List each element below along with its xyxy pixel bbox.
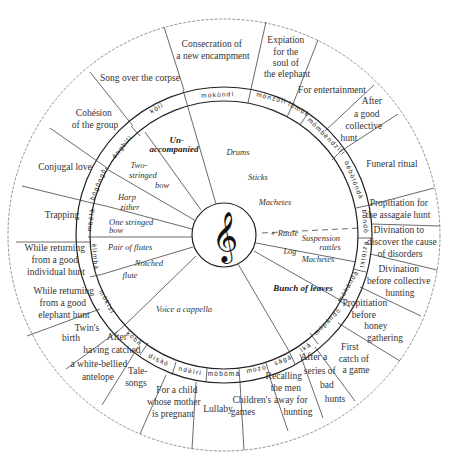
ring-label: èlìmbà xyxy=(91,243,100,270)
segment-after-good-collective-hunt: After a good collective hunt xyxy=(341,96,385,143)
ring-label: èngbìlì xyxy=(110,133,134,160)
segment-cohesion: Cohésion of the group xyxy=(72,108,119,130)
segment-propitiation-honey: Propitiation before honey gathering xyxy=(342,298,403,343)
segment-returning-individual: While returning from a good individual h… xyxy=(25,243,88,277)
inner-label-unaccompanied: Un- accompanied xyxy=(150,135,199,154)
inner-label-rattle: + Rattle xyxy=(270,228,298,238)
treble-clef-icon: 𝄞 xyxy=(212,210,238,264)
segment-conjugal-love: Conjugal love xyxy=(38,162,92,172)
segment-divination-collective: Divination before collective hunting xyxy=(367,264,433,298)
ring-label: mbèlà xyxy=(85,207,95,231)
inner-label-machetes-bottom: Machetes xyxy=(301,254,335,264)
segment-twins-birth: Twin's birth xyxy=(62,323,102,343)
segment-lullaby: Lullaby xyxy=(203,404,233,414)
segment-childrens-games: Children's games xyxy=(231,395,274,417)
ring-label: dìsàò xyxy=(148,352,171,368)
segment-song-corpse: Song over the corpse xyxy=(100,73,180,83)
ring-label: mòkòndì xyxy=(201,90,235,99)
segment-expiation: Expiation for the soul of the elephant xyxy=(264,35,311,79)
ring-label: mòbòmà xyxy=(208,370,241,377)
segment-divination-disorders: Divination to discover the cause of diso… xyxy=(367,225,439,259)
segment-entertainment: For entertainment xyxy=(298,85,366,95)
segment-returning-elephant: While returning from a good elephant hun… xyxy=(34,286,97,320)
segment-consecration: Consecration of a new encampment xyxy=(176,39,250,61)
inner-label-voice-a-cappella: Voice a cappella xyxy=(156,304,212,314)
segment-propitiation-assagaie: Propitiation for the assagaie hunt xyxy=(366,198,431,220)
ring-label: bòndò xyxy=(361,209,370,234)
inner-label-suspension-rattles: Suspension rattles xyxy=(302,233,342,252)
inner-label-bunch-of-leaves: Bunch of leaves xyxy=(272,283,333,293)
ring-label: kòlì xyxy=(149,101,165,115)
inner-label-log: Log xyxy=(282,246,296,256)
ring-label: bògòngò xyxy=(88,167,108,201)
inner-label-machetes-top: Machetes xyxy=(258,197,292,207)
inner-label-notched-flute: Notched flute xyxy=(122,258,165,280)
ring-label: mòpàndò xyxy=(312,306,343,337)
inner-label-one-stringed-bow: One stringed bow xyxy=(109,217,155,235)
inner-label-harp-zither: Harp zither xyxy=(117,192,140,212)
segment-child-pregnant: For a child whose mother is pregnant xyxy=(147,385,203,419)
segment-first-catch: First catch of a game xyxy=(339,342,372,375)
segment-tale-songs: Tale- songs xyxy=(125,366,150,388)
inner-label-pair-of-flutes: Pair of flutes xyxy=(107,242,153,252)
segment-recalling-men: Recalling the men away for hunting xyxy=(266,371,313,417)
inner-label-drums: Drums xyxy=(225,147,250,157)
ring-label: mòkìsì xyxy=(98,289,117,316)
segment-trapping: Trapping xyxy=(45,210,80,220)
ring-label: mòzò xyxy=(246,363,268,374)
music-function-wheel: 𝄞 Consecration of a new encampment Expia… xyxy=(0,0,449,461)
segment-funeral-ritual: Funeral ritual xyxy=(366,159,418,169)
ring-label: sàgà xyxy=(273,353,294,367)
ring-label: mònzólì xyxy=(256,90,288,104)
inner-label-sticks: Sticks xyxy=(248,172,269,182)
